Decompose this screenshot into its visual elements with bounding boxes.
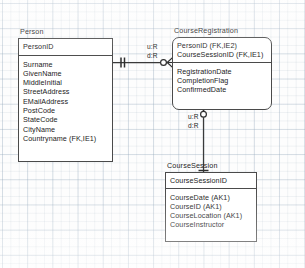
entity-coursesession-attribute-3: CourseInstructor — [170, 220, 252, 229]
entity-courseregistration-attribute-0: RegistrationDate — [177, 67, 267, 76]
entity-person-attribute-7: CityName — [23, 125, 108, 134]
entity-courseregistration-attribute-2: ConfirmedDate — [177, 85, 267, 94]
entity-person-attribute-4: EMailAddress — [23, 97, 108, 106]
entity-coursesession-attribute-area: CourseDate (AK1) CourseID (AK1) CourseLo… — [166, 189, 256, 232]
relationship-person-to-courseregistration[interactable] — [113, 58, 173, 68]
relationship-update-rule-person: u:R — [147, 43, 157, 51]
cardinality-zero-circle — [161, 60, 167, 66]
entity-person-attribute-8: Countryname (FK,IE1) — [23, 134, 108, 143]
cardinality-zero-circle-vertical — [201, 111, 207, 117]
entity-title-coursesession: CourseSession — [167, 161, 218, 170]
relationship-update-rule-session: u:R — [188, 113, 198, 121]
relationship-delete-rule-session: d:R — [188, 122, 198, 130]
entity-title-courseregistration: CourseRegistration — [174, 26, 238, 35]
er-diagram-canvas: Person PersonID Surname GivenName Middle… — [0, 0, 305, 268]
entity-courseregistration[interactable]: PersonID (FK,IE2) CourseSessionID (FK,IE… — [172, 37, 272, 110]
entity-coursesession-attribute-2: CourseLocation (AK1) — [170, 211, 252, 220]
entity-courseregistration-key-1: CourseSessionID (FK,IE1) — [177, 50, 267, 59]
entity-person[interactable]: PersonID Surname GivenName MiddleInitial… — [18, 38, 113, 162]
entity-person-attribute-3: StreetAddress — [23, 87, 108, 96]
entity-coursesession-attribute-1: CourseID (AK1) — [170, 202, 252, 211]
entity-person-attribute-6: StateCode — [23, 115, 108, 124]
entity-coursesession-attribute-0: CourseDate (AK1) — [170, 193, 252, 202]
entity-courseregistration-attribute-1: CompletionFlag — [177, 76, 267, 85]
entity-person-attribute-area: Surname GivenName MiddleInitial StreetAd… — [19, 56, 112, 145]
entity-title-person: Person — [20, 27, 44, 36]
entity-person-attribute-0: Surname — [23, 60, 108, 69]
entity-person-key-area: PersonID — [19, 39, 112, 56]
entity-coursesession-key-area: CourseSessionID — [166, 173, 256, 189]
entity-coursesession-key-0: CourseSessionID — [170, 176, 252, 185]
relationship-delete-rule-person: d:R — [147, 52, 157, 60]
entity-person-key-0: PersonID — [23, 42, 108, 51]
entity-person-attribute-2: MiddleInitial — [23, 78, 108, 87]
entity-coursesession[interactable]: CourseSessionID CourseDate (AK1) CourseI… — [165, 172, 257, 242]
entity-person-attribute-5: PostCode — [23, 106, 108, 115]
entity-courseregistration-key-area: PersonID (FK,IE2) CourseSessionID (FK,IE… — [173, 38, 271, 63]
entity-courseregistration-attribute-area: RegistrationDate CompletionFlag Confirme… — [173, 63, 271, 96]
entity-courseregistration-key-0: PersonID (FK,IE2) — [177, 41, 267, 50]
entity-person-attribute-1: GivenName — [23, 69, 108, 78]
